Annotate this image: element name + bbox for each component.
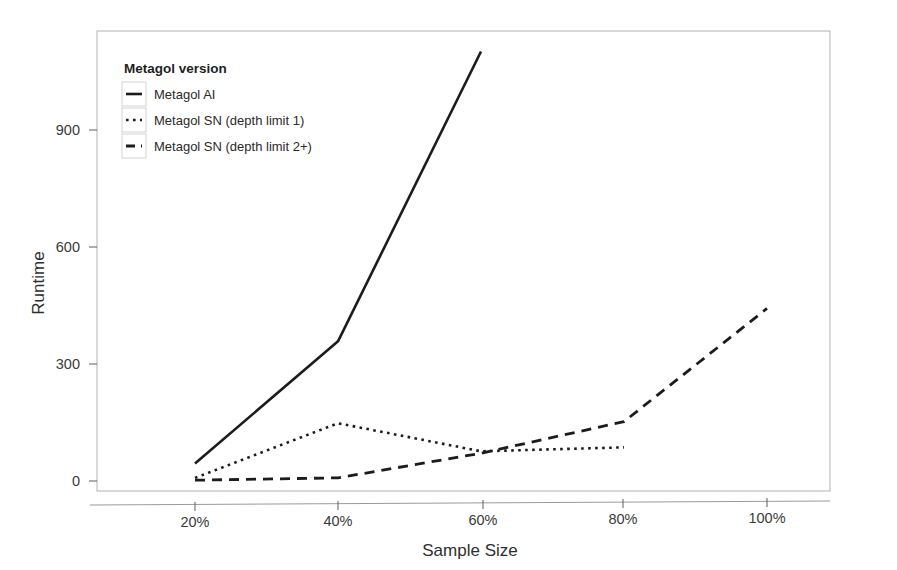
y-axis-title: Runtime (29, 251, 48, 314)
chart-svg: 0 300 600 900 Runtime 20% 40% 60% 80% 10… (0, 0, 897, 570)
x-axis-title: Sample Size (422, 541, 517, 560)
legend-label-1: Metagol SN (depth limit 1) (154, 113, 304, 128)
x-tick-label-60: 60% (468, 512, 497, 528)
legend-title: Metagol version (124, 61, 227, 76)
legend-label-0: Metagol AI (154, 87, 215, 102)
y-tick-label-900: 900 (56, 122, 80, 138)
runtime-vs-sample-size-chart: 0 300 600 900 Runtime 20% 40% 60% 80% 10… (0, 0, 897, 570)
y-tick-label-300: 300 (56, 356, 80, 372)
x-tick-label-20: 20% (180, 514, 209, 530)
legend-label-2: Metagol SN (depth limit 2+) (154, 139, 312, 154)
y-tick-label-600: 600 (56, 239, 80, 255)
y-tick-label-0: 0 (72, 473, 80, 489)
x-tick-label-80: 80% (608, 511, 637, 527)
x-tick-label-100: 100% (748, 510, 785, 526)
x-tick-label-40: 40% (323, 513, 352, 529)
